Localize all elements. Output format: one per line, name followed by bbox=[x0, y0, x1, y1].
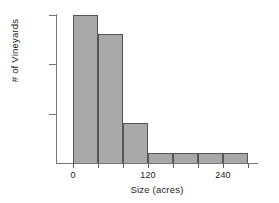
histogram-bar bbox=[123, 123, 148, 163]
x-tick bbox=[198, 163, 199, 168]
x-tick-label: 0 bbox=[53, 170, 93, 180]
plot-area: 51015 0120240 Size (acres) # of Vineyard… bbox=[0, 0, 279, 203]
y-tick bbox=[49, 114, 56, 115]
x-tick bbox=[73, 163, 74, 168]
histogram-figure: 51015 0120240 Size (acres) # of Vineyard… bbox=[0, 0, 279, 203]
x-tick bbox=[123, 163, 124, 168]
x-axis-title: Size (acres) bbox=[56, 184, 258, 195]
histogram-bar bbox=[148, 153, 173, 163]
x-tick bbox=[223, 163, 224, 168]
y-tick bbox=[49, 64, 56, 65]
y-tick bbox=[49, 15, 56, 16]
x-tick bbox=[173, 163, 174, 168]
histogram-bar bbox=[98, 34, 123, 163]
x-tick-label: 240 bbox=[203, 170, 243, 180]
x-tick-label: 120 bbox=[128, 170, 168, 180]
x-tick bbox=[248, 163, 249, 168]
x-axis-line bbox=[56, 163, 258, 164]
x-tick bbox=[98, 163, 99, 168]
x-tick bbox=[148, 163, 149, 168]
y-axis-line bbox=[56, 14, 57, 164]
histogram-bar bbox=[73, 15, 98, 164]
histogram-bar bbox=[173, 153, 198, 163]
histogram-bar bbox=[223, 153, 248, 163]
y-axis-title: # of Vineyards bbox=[9, 0, 20, 111]
histogram-bar bbox=[198, 153, 223, 163]
